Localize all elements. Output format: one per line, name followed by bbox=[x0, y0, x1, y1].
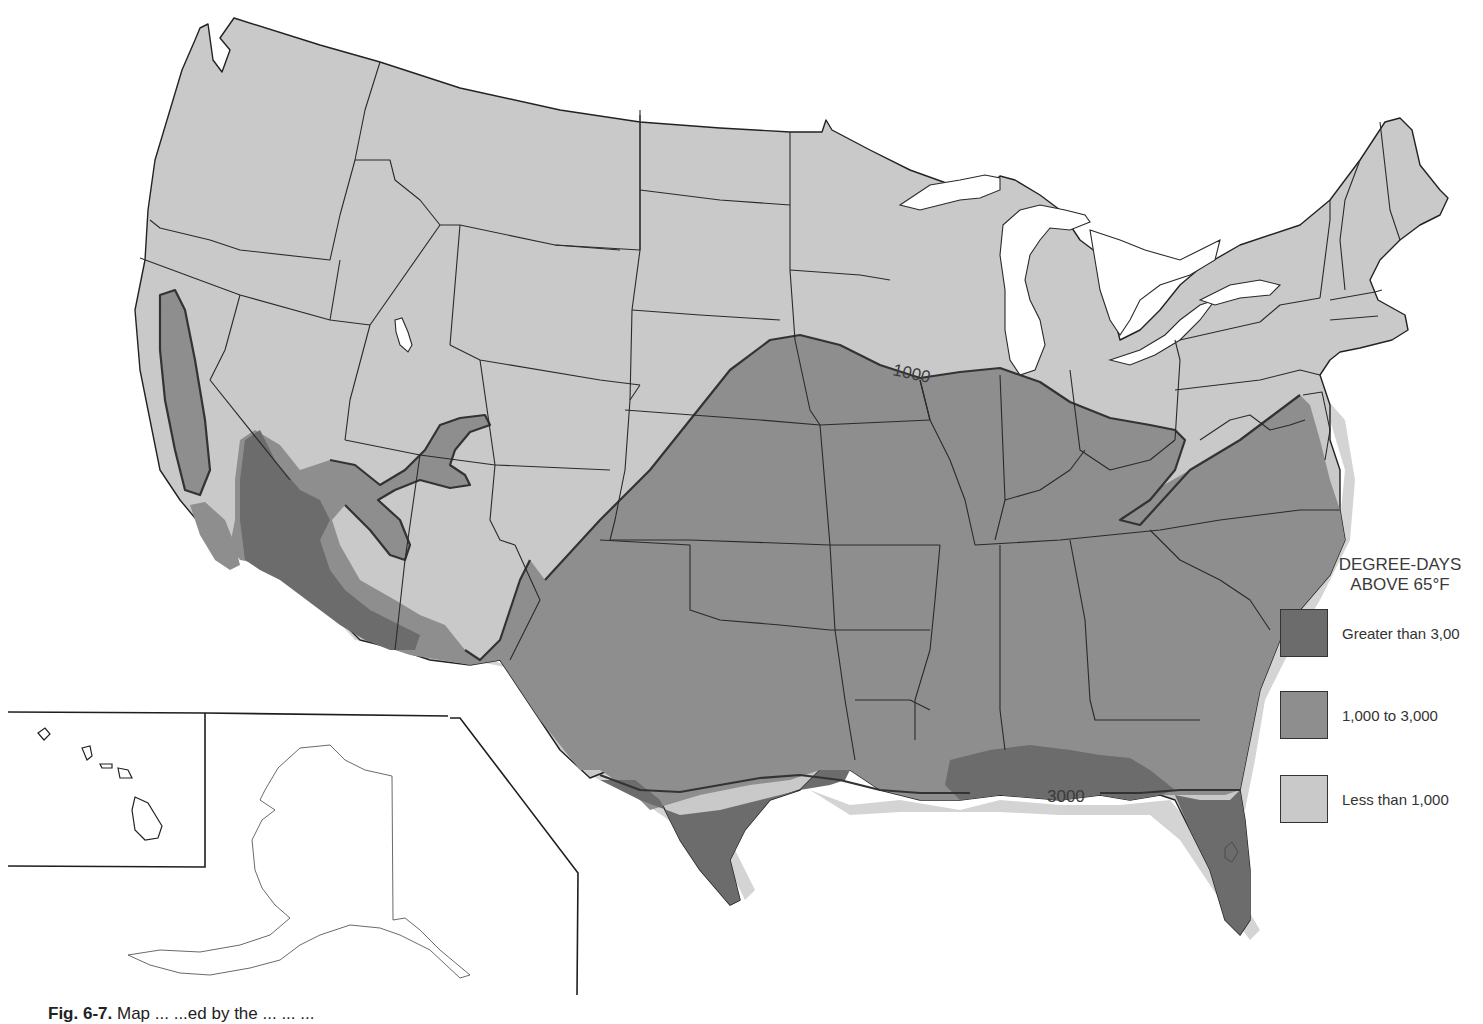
legend-swatch-dark bbox=[1280, 609, 1328, 657]
legend-item-1000-to-3000: 1,000 to 3,000 bbox=[1280, 691, 1438, 739]
legend-item-less-than-1000: Less than 1,000 bbox=[1280, 775, 1449, 823]
figure-caption: Fig. 6-7. Map ... ...ed by the ... ... .… bbox=[48, 1004, 314, 1024]
legend-label: Greater than 3,00 bbox=[1342, 625, 1460, 642]
hawaii-inset bbox=[38, 728, 162, 840]
legend-label: 1,000 to 3,000 bbox=[1342, 707, 1438, 724]
legend-item-greater-than-3000: Greater than 3,00 bbox=[1280, 609, 1460, 657]
figure-number: Fig. 6-7. bbox=[48, 1004, 112, 1023]
legend-swatch-light bbox=[1280, 775, 1328, 823]
legend-swatch-medium bbox=[1280, 691, 1328, 739]
alaska-inset bbox=[128, 745, 470, 978]
figure-caption-text: Map ... ...ed by the ... ... ... bbox=[117, 1004, 314, 1023]
legend-label: Less than 1,000 bbox=[1342, 791, 1449, 808]
legend-title-line1: DEGREE-DAYS bbox=[1310, 555, 1483, 575]
legend-title-line2: ABOVE 65°F bbox=[1310, 575, 1483, 595]
contour-label-3000: 3000 bbox=[1047, 787, 1085, 806]
